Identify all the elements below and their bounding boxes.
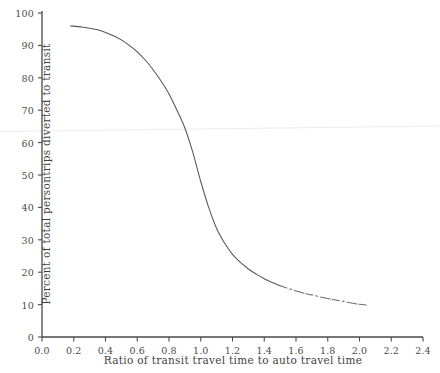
- y-tick-label: 30: [8, 234, 34, 245]
- y-tick-label: 70: [8, 105, 34, 116]
- y-tick-label: 40: [8, 202, 34, 213]
- y-axis-title: Percent of total persontrips diverted to…: [40, 24, 52, 324]
- y-tick-label: 90: [8, 40, 34, 51]
- diversion-curve-dashed-tail: [280, 286, 367, 305]
- y-tick-label: 0: [8, 332, 34, 343]
- y-tick-label: 50: [8, 170, 34, 181]
- diversion-curve-solid: [71, 26, 281, 286]
- x-axis-ticks: [42, 337, 423, 342]
- plot-area: [0, 0, 440, 373]
- chart-page: 0102030405060708090100 0.00.20.40.60.81.…: [0, 0, 440, 373]
- y-tick-label: 80: [8, 72, 34, 83]
- x-axis-title: Ratio of transit travel time to auto tra…: [42, 354, 424, 366]
- y-tick-label: 100: [8, 8, 34, 19]
- y-tick-label: 10: [8, 299, 34, 310]
- y-tick-label: 20: [8, 267, 34, 278]
- y-tick-label: 60: [8, 137, 34, 148]
